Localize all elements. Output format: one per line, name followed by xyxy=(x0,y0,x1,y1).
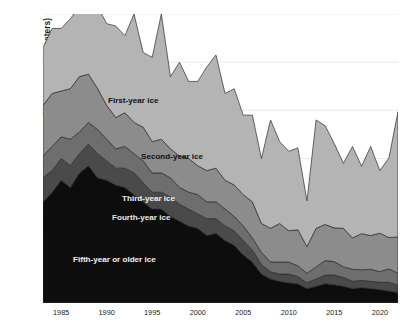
annotation-fourth-year-ice: Fourth-year ice xyxy=(112,213,170,222)
x-tick-2020: 2020 xyxy=(360,308,400,317)
annotation-third-year-ice: Third-year ice xyxy=(122,194,175,203)
x-tick-2010: 2010 xyxy=(269,308,309,317)
annotation-fifth-year-or-older-ice: Fifth-year or older ice xyxy=(73,255,156,264)
annotation-second-year-ice: Second-year ice xyxy=(141,152,203,161)
x-tick-2005: 2005 xyxy=(223,308,263,317)
x-tick-1985: 1985 xyxy=(41,308,81,317)
x-tick-2000: 2000 xyxy=(178,308,218,317)
x-tick-2015: 2015 xyxy=(314,308,354,317)
annotation-first-year-ice: First-year ice xyxy=(108,96,158,105)
x-tick-1990: 1990 xyxy=(87,308,127,317)
x-tick-1995: 1995 xyxy=(132,308,172,317)
chart-figure: Ice Extent at Minimum September Week (mi… xyxy=(0,0,418,331)
